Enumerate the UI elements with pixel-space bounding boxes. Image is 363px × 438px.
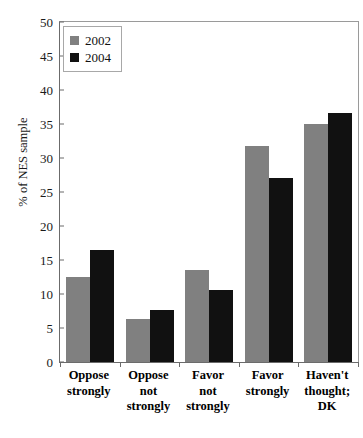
y-tick-label-15: 15 xyxy=(40,254,60,267)
legend-label: 2004 xyxy=(85,51,111,64)
y-tick-label-10: 10 xyxy=(40,288,60,301)
x-tick-mark xyxy=(239,362,240,367)
y-tick-label-5: 5 xyxy=(47,322,61,335)
bar-group xyxy=(239,22,299,362)
x-tick-mark xyxy=(60,362,61,367)
y-tick-label-35: 35 xyxy=(40,118,60,131)
y-tick-label-40: 40 xyxy=(40,84,60,97)
x-axis-label-line: strongly xyxy=(238,384,298,400)
x-tick-mark xyxy=(298,362,299,367)
x-axis-label-line: Haven't xyxy=(297,368,357,384)
bar-group xyxy=(179,22,239,362)
bar-2002-2 xyxy=(126,319,150,362)
legend-label: 2002 xyxy=(85,34,111,47)
bar-group xyxy=(120,22,180,362)
bar-2004-1 xyxy=(90,250,114,362)
bar-2004-2 xyxy=(150,310,174,362)
y-tick-label-25: 25 xyxy=(40,186,60,199)
x-axis-label-line: Oppose xyxy=(119,368,179,384)
x-axis-label-line: strongly xyxy=(178,399,238,415)
y-tick-label-45: 45 xyxy=(40,50,60,63)
chart-legend: 20022004 xyxy=(63,26,122,72)
bar-2004-5 xyxy=(328,113,352,362)
x-axis-label-line: Favor xyxy=(178,368,238,384)
legend-item-2002: 2002 xyxy=(70,32,111,49)
x-axis-label-2: Opposenotstrongly xyxy=(119,368,179,415)
x-axis-label-line: not xyxy=(119,384,179,400)
x-axis-label-3: Favornotstrongly xyxy=(178,368,238,415)
x-axis-label-line: strongly xyxy=(59,384,119,400)
bar-group xyxy=(60,22,120,362)
black-square-icon xyxy=(70,53,79,62)
bar-2002-5 xyxy=(304,124,328,362)
bar-2004-3 xyxy=(209,290,233,362)
x-axis-label-line: strongly xyxy=(119,399,179,415)
x-axis-labels: OpposestronglyOpposenotstronglyFavornots… xyxy=(59,368,359,434)
y-tick-label-30: 30 xyxy=(40,152,60,165)
y-tick-label-50: 50 xyxy=(40,16,60,29)
legend-item-2004: 2004 xyxy=(70,49,111,66)
x-axis-label-line: thought; xyxy=(297,384,357,400)
y-axis-title: % of NES sample xyxy=(13,82,33,242)
y-tick-label-0: 0 xyxy=(47,356,61,369)
gray-square-icon xyxy=(70,36,79,45)
x-tick-mark xyxy=(358,362,359,367)
x-axis-label-line: Favor xyxy=(238,368,298,384)
x-tick-mark xyxy=(120,362,121,367)
bar-2004-4 xyxy=(269,178,293,362)
y-tick-label-20: 20 xyxy=(40,220,60,233)
x-tick-mark xyxy=(179,362,180,367)
x-axis-label-line: Oppose xyxy=(59,368,119,384)
bar-chart: % of NES sample 05101520253035404550 Opp… xyxy=(0,0,363,438)
bar-group xyxy=(298,22,358,362)
bar-2002-3 xyxy=(185,270,209,362)
bar-2002-1 xyxy=(66,277,90,362)
bars-layer xyxy=(60,22,358,362)
x-axis-label-line: not xyxy=(178,384,238,400)
x-axis-label-1: Opposestrongly xyxy=(59,368,119,399)
x-axis-label-line: DK xyxy=(297,399,357,415)
bar-2002-4 xyxy=(245,146,269,362)
x-axis-label-5: Haven'tthought;DK xyxy=(297,368,357,415)
plot-area: 05101520253035404550 xyxy=(59,21,359,363)
x-axis-label-4: Favorstrongly xyxy=(238,368,298,399)
